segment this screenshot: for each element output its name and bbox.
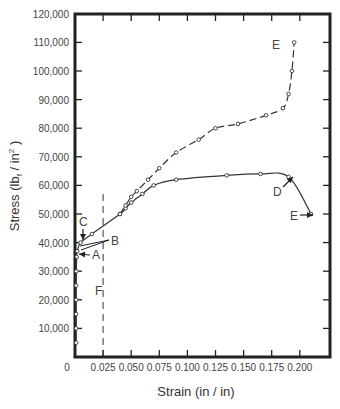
data-point-marker — [75, 269, 79, 273]
data-point-marker — [174, 178, 178, 182]
x-tick-label: 0.150 — [231, 362, 256, 373]
x-tick-label: 0 — [64, 362, 70, 373]
data-point-marker — [141, 192, 145, 196]
y-tick-label: 20,000 — [38, 295, 69, 306]
y-tick-label: 90,000 — [38, 95, 69, 106]
data-point-marker — [158, 166, 162, 170]
data-point-marker — [75, 255, 79, 259]
data-point-marker — [225, 174, 229, 178]
annotation-e-top-label: E — [272, 38, 280, 52]
data-point-marker — [74, 327, 78, 331]
y-tick-label: 60,000 — [38, 180, 69, 191]
annotation-f-label: F — [95, 284, 102, 298]
data-point-marker — [129, 201, 133, 205]
data-point-marker — [152, 184, 156, 188]
stress-strain-chart: 10,00020,00030,00040,00050,00060,00070,0… — [0, 0, 340, 409]
annotation-b-label: B — [111, 234, 119, 248]
data-point-marker — [197, 138, 201, 142]
y-axis-title: Stress (lbf / in2 ) — [7, 141, 24, 232]
annotation-e-label: E — [290, 209, 298, 223]
data-point-marker — [236, 122, 240, 126]
data-point-marker — [74, 298, 78, 302]
plot-frame — [75, 14, 330, 357]
data-point-marker — [281, 106, 285, 110]
data-point-marker — [74, 341, 78, 345]
data-point-marker — [146, 178, 150, 182]
y-tick-label: 50,000 — [38, 209, 69, 220]
data-point-marker — [74, 284, 78, 288]
x-tick-label: 0.050 — [119, 362, 144, 373]
data-point-marker — [292, 41, 296, 45]
x-tick-label: 0.200 — [287, 362, 312, 373]
data-point-marker — [124, 204, 128, 208]
x-tick-label: 0.025 — [91, 362, 116, 373]
annotation-c-label: C — [79, 215, 88, 229]
data-point-marker — [118, 212, 122, 216]
y-tick-label: 40,000 — [38, 238, 69, 249]
data-point-marker — [214, 126, 218, 130]
data-point-marker — [90, 232, 94, 236]
data-point-marker — [287, 92, 291, 96]
true-stress-curve — [120, 42, 294, 214]
data-point-marker — [264, 114, 268, 118]
x-tick-label: 0.175 — [259, 362, 284, 373]
x-tick-label: 0.125 — [203, 362, 228, 373]
data-point-marker — [74, 312, 78, 316]
data-point-marker — [135, 189, 139, 193]
y-tick-label: 30,000 — [38, 266, 69, 277]
annotation-a-arrow-head — [79, 252, 85, 258]
data-point-marker — [79, 241, 83, 245]
data-point-marker — [129, 195, 133, 199]
y-tick-label: 110,000 — [34, 37, 70, 48]
data-point-marker — [259, 172, 263, 176]
x-axis-title: Strain (in / in) — [157, 384, 234, 399]
x-tick-label: 0.075 — [147, 362, 172, 373]
data-point-marker — [174, 151, 178, 155]
y-tick-label: 120,000 — [33, 9, 70, 20]
annotation-a-label: A — [92, 248, 100, 262]
annotations: ACBDEEF — [79, 38, 313, 298]
y-tick-label: 70,000 — [38, 152, 69, 163]
data-point-marker — [75, 249, 79, 253]
y-tick-label: 10,000 — [38, 323, 69, 334]
data-point-marker — [290, 69, 294, 73]
y-tick-label: 100,000 — [33, 66, 70, 77]
annotation-d-label: D — [273, 185, 282, 199]
x-tick-label: 0.100 — [175, 362, 200, 373]
y-tick-label: 80,000 — [38, 123, 69, 134]
